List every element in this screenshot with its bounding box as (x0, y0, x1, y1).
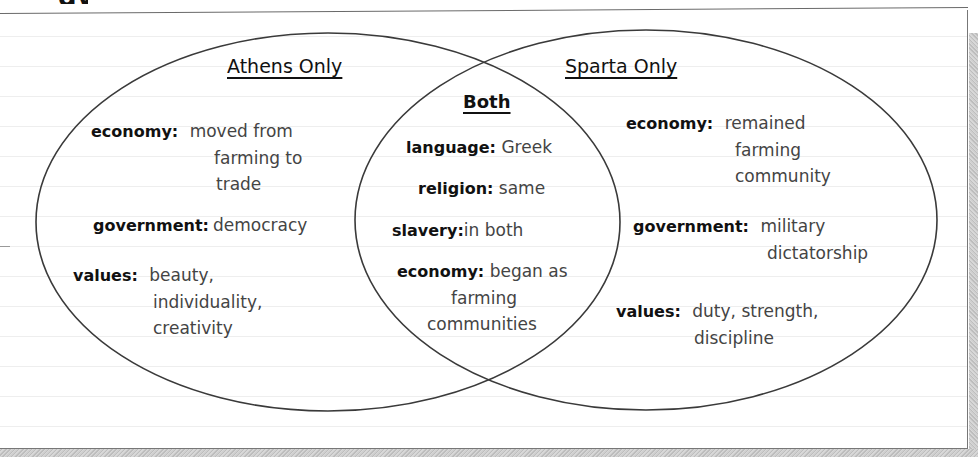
entry-key: language: (406, 138, 496, 157)
entry-key: religion: (418, 179, 493, 198)
sparta-government-entry: government: military dictatorship (633, 213, 868, 266)
entry-value: beauty, (149, 265, 214, 285)
entry-value-cont: creativity (153, 315, 262, 341)
entry-key: economy: (397, 262, 484, 281)
entry-value: remained (725, 113, 806, 133)
entry-key: values: (616, 302, 681, 321)
entry-value: duty, strength, (692, 301, 818, 321)
both-title: Both (463, 91, 511, 112)
entry-value-cont: dictatorship (767, 240, 868, 266)
both-slavery-entry: slavery:in both (392, 217, 523, 244)
entry-value: democracy (213, 215, 307, 235)
athens-economy-entry: economy: moved from farming to trade (91, 118, 302, 197)
entry-key: values: (73, 266, 138, 285)
entry-value-cont: trade (216, 171, 302, 197)
entry-value-cont: farming (735, 137, 831, 163)
both-economy-entry: economy: began as farming communities (397, 258, 568, 337)
entry-key: economy: (626, 114, 713, 133)
athens-values-entry: values: beauty, individuality, creativit… (73, 262, 262, 341)
entry-value: same (499, 178, 545, 198)
entry-value-cont: farming (451, 285, 568, 311)
entry-value: began as (490, 261, 568, 281)
sparta-economy-entry: economy: remained farming community (626, 110, 831, 189)
entry-key: government: (93, 216, 209, 235)
both-language-entry: language: Greek (406, 134, 552, 161)
athens-only-title: Athens Only (227, 55, 342, 77)
entry-key: slavery: (392, 221, 464, 240)
entry-value: moved from (190, 121, 293, 141)
both-religion-entry: religion: same (418, 175, 545, 202)
entry-value-cont: farming to (214, 145, 302, 171)
entry-value-cont: communities (427, 311, 568, 337)
entry-value-cont: individuality, (153, 289, 262, 315)
entry-key: government: (633, 217, 749, 236)
entry-value: in both (464, 220, 524, 240)
sparta-only-title: Sparta Only (565, 55, 677, 77)
entry-value-cont: community (735, 163, 831, 189)
entry-value-cont: discipline (694, 325, 818, 351)
entry-value: military (760, 216, 825, 236)
athens-government-entry: government:democracy (93, 212, 307, 239)
entry-value: Greek (501, 137, 552, 157)
sparta-values-entry: values: duty, strength, discipline (616, 298, 818, 351)
entry-key: economy: (91, 122, 178, 141)
